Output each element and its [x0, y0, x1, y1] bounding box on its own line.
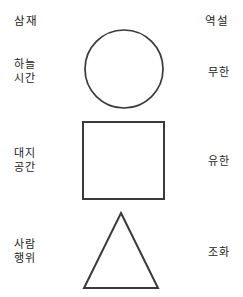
square-shape [83, 122, 164, 199]
shape-layer [0, 0, 243, 297]
circle-shape [85, 30, 163, 108]
three-powers-diagram: 삼재 역설 하늘 시간 무한 대지 공간 유한 사람 행위 조화 [0, 0, 243, 297]
triangle-shape [84, 213, 158, 288]
